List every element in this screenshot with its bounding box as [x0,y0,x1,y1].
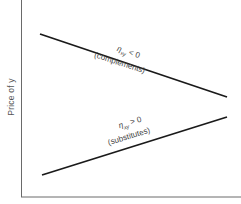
plot-area [0,0,241,204]
y-axis-label: Price of y [6,72,16,122]
cross-elasticity-diagram: Price of y ηxy < 0 (complements) ηxy > 0… [0,0,241,204]
